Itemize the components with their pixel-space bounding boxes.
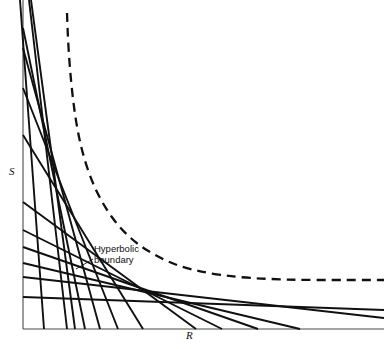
envelope-tangent-lines <box>20 0 384 329</box>
annotation-line-2: boundary <box>94 254 139 265</box>
hyperbolic-boundary-annotation: Hyperbolic boundary <box>94 243 139 265</box>
plot-canvas <box>0 0 384 349</box>
hyperbolic-boundary-curve <box>67 13 384 280</box>
hyperbolic-boundary-figure: S R Hyperbolic boundary <box>0 0 384 349</box>
axis-group <box>23 0 384 329</box>
annotation-line-1: Hyperbolic <box>94 243 139 254</box>
y-axis-label: S <box>9 165 15 177</box>
tangent-line-12 <box>23 277 384 318</box>
tangent-line-10 <box>23 247 258 329</box>
tangent-line-13 <box>23 297 384 310</box>
tangent-line-11 <box>23 263 300 329</box>
x-axis-label: R <box>186 329 193 341</box>
